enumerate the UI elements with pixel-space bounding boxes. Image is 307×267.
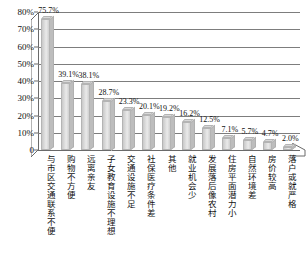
- bar-column: 19.2%: [159, 12, 179, 150]
- x-axis-category-label: 住房平面潜力小: [224, 155, 235, 218]
- bar: [263, 142, 272, 150]
- x-axis-category-label: 远离亲友: [83, 155, 94, 191]
- y-axis-tick-label: 50%: [18, 59, 35, 68]
- bar-side-face: [171, 114, 175, 150]
- bar-side-face: [70, 79, 74, 150]
- bar-column: 39.1%: [58, 12, 78, 150]
- bar-value-label: 38.1%: [78, 72, 99, 80]
- bar: [81, 84, 90, 150]
- bar-column: 20.1%: [139, 12, 159, 150]
- bar-value-label: 75.7%: [38, 7, 59, 15]
- x-axis-category-label: 交通设施不足: [123, 155, 134, 209]
- y-axis-tick-label: 70%: [18, 25, 35, 34]
- y-axis-tick-label: 20%: [18, 111, 35, 120]
- bar-chart: 010%20%30%40%50%60%70%80% 75.7%39.1%38.1…: [0, 0, 307, 267]
- bar-value-label: 23.3%: [119, 98, 140, 106]
- bar: [162, 117, 171, 150]
- y-axis-tick-label: 40%: [18, 77, 35, 86]
- y-axis-tick-label: 60%: [18, 42, 35, 51]
- x-axis-category-label: 其他: [164, 155, 175, 173]
- bar: [283, 147, 292, 150]
- bar-value-label: 12.5%: [199, 116, 220, 124]
- bar-value-label: 5.7%: [242, 128, 259, 136]
- bar-top-face: [102, 98, 114, 101]
- x-axis-category-label: 购物不方便: [63, 155, 74, 200]
- bar-value-label: 19.2%: [159, 105, 180, 113]
- y-axis-tick-label: 30%: [18, 94, 35, 103]
- bar: [102, 101, 111, 151]
- bar-value-label: 2.0%: [282, 135, 299, 143]
- bar-value-label: 20.1%: [139, 103, 160, 111]
- x-axis-category-label: 自然环境差: [244, 155, 255, 200]
- bar-series: 75.7%39.1%38.1%28.7%23.3%20.1%19.2%16.2%…: [38, 12, 300, 150]
- x-axis-category-label: 就业机会少: [184, 155, 195, 200]
- bar-column: 38.1%: [78, 12, 98, 150]
- bar-side-face: [191, 119, 195, 150]
- bar-column: 12.5%: [199, 12, 219, 150]
- bar-value-label: 7.1%: [221, 126, 238, 134]
- y-axis-tick-label: 80%: [18, 8, 35, 17]
- x-axis-category-label: 子女教育设施不理想: [103, 155, 114, 236]
- bar: [41, 19, 50, 150]
- bar-value-label: 28.7%: [99, 89, 120, 97]
- bar-column: 5.7%: [240, 12, 260, 150]
- bar: [61, 83, 70, 150]
- bar-side-face: [231, 135, 235, 150]
- bar-column: 75.7%: [38, 12, 58, 150]
- bar-side-face: [151, 112, 155, 150]
- bar-side-face: [50, 16, 54, 150]
- bar: [142, 115, 151, 150]
- bar: [222, 138, 231, 150]
- bar-column: 23.3%: [119, 12, 139, 150]
- bar-column: 2.0%: [280, 12, 300, 150]
- x-axis-baseline: [38, 150, 300, 151]
- x-axis-category-label: 房价较高: [264, 155, 275, 191]
- x-axis-category-label: 与市区交通联系不便: [43, 155, 54, 236]
- bar-column: 28.7%: [99, 12, 119, 150]
- x-axis-category-label: 发展落后像农村: [204, 155, 215, 218]
- x-axis-category-label: 社保医疗条件差: [143, 155, 154, 218]
- bar-column: 16.2%: [179, 12, 199, 150]
- bar-side-face: [131, 107, 135, 150]
- bar-value-label: 4.7%: [262, 130, 279, 138]
- bar-column: 7.1%: [219, 12, 239, 150]
- bar-value-label: 16.2%: [179, 110, 200, 118]
- bar: [202, 128, 211, 150]
- bar-value-label: 39.1%: [58, 71, 79, 79]
- x-axis-category-labels: 与市区交通联系不便购物不方便远离亲友子女教育设施不理想交通设施不足社保医疗条件差…: [38, 155, 300, 267]
- x-axis-category-label: 落户或就严格: [284, 155, 295, 209]
- bar-side-face: [211, 125, 215, 150]
- bar: [182, 122, 191, 150]
- bar-column: 4.7%: [260, 12, 280, 150]
- y-axis-tick-label: 10%: [18, 128, 35, 137]
- bar: [243, 140, 252, 150]
- bar: [122, 110, 131, 150]
- bar-side-face: [111, 97, 115, 150]
- bar-side-face: [90, 81, 94, 150]
